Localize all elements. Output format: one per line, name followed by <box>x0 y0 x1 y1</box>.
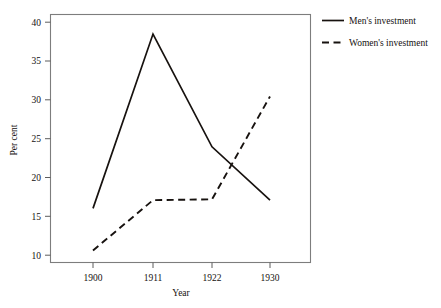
y-tick-label-20: 20 <box>32 173 42 183</box>
y-axis-ticks <box>45 22 51 255</box>
y-tick-label-40: 40 <box>32 18 42 28</box>
legend: Men's investment Women's investment <box>322 16 428 48</box>
series-line-womens-investment <box>93 96 270 250</box>
x-tick-label-1922: 1922 <box>203 273 222 283</box>
y-tick-label-10: 10 <box>32 251 42 261</box>
x-axis-tick-labels: 1900 1911 1922 1930 <box>84 273 280 283</box>
x-tick-label-1911: 1911 <box>144 273 163 283</box>
y-tick-label-35: 35 <box>32 56 42 66</box>
x-axis-title: Year <box>172 288 190 298</box>
series-line-mens-investment <box>93 34 270 208</box>
x-tick-label-1930: 1930 <box>261 273 280 283</box>
plot-frame <box>51 15 311 263</box>
legend-label-mens-investment: Men's investment <box>349 16 416 26</box>
y-axis-tick-labels: 10 15 20 25 30 35 40 <box>32 18 42 261</box>
legend-label-womens-investment: Women's investment <box>349 38 428 48</box>
y-tick-label-30: 30 <box>32 95 42 105</box>
y-tick-label-15: 15 <box>32 212 42 222</box>
x-tick-label-1900: 1900 <box>84 273 103 283</box>
x-axis-ticks <box>93 263 270 269</box>
line-chart-figure: 10 15 20 25 30 35 40 Per cent 1900 1911 … <box>0 0 441 308</box>
y-tick-label-25: 25 <box>32 134 42 144</box>
y-axis-title: Per cent <box>9 124 19 155</box>
